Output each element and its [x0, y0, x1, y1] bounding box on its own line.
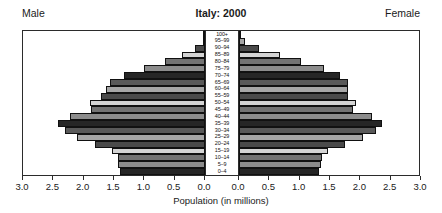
table-row [23, 100, 205, 107]
female-bars-panel [239, 31, 421, 175]
table-row [23, 79, 205, 86]
table-row [23, 120, 205, 127]
axis-tick [143, 176, 144, 180]
age-band-label-5-9: 5–9 [206, 162, 238, 167]
table-row [239, 65, 421, 72]
bar-female-30-34 [239, 127, 376, 134]
bar-female-35-39 [239, 120, 382, 127]
bar-female-95-99 [239, 38, 245, 45]
table-row [239, 168, 421, 175]
table-row [23, 72, 205, 79]
table-row [239, 141, 421, 148]
table-row [23, 134, 205, 141]
bar-female-10-14 [239, 154, 322, 161]
table-row [239, 93, 421, 100]
age-band-label-35-39: 35–39 [206, 121, 238, 126]
age-band-label-15-19: 15–19 [206, 148, 238, 153]
bar-male-70-74 [124, 72, 205, 79]
bar-female-75-79 [239, 65, 324, 72]
table-row [239, 106, 421, 113]
axis-tick [420, 176, 421, 180]
age-band-label-50-54: 50–54 [206, 100, 238, 105]
axis-tick-label: 1.0 [292, 181, 305, 192]
axis-tick-label: 2.5 [46, 181, 59, 192]
axis-tick-label: 0.0 [197, 181, 210, 192]
table-row [23, 65, 205, 72]
bar-male-75-79 [144, 65, 205, 72]
age-band-label-100+: 100+ [206, 32, 238, 37]
bar-female-25-29 [239, 134, 363, 141]
age-band-label-70-74: 70–74 [206, 73, 238, 78]
bar-male-0-4 [120, 168, 205, 175]
axis-tick [238, 176, 239, 180]
bar-female-90-94 [239, 45, 259, 52]
table-row [23, 38, 205, 45]
bar-male-20-24 [95, 141, 205, 148]
x-axis-title: Population (in millions) [22, 195, 420, 206]
axis-tick-label: 2.0 [353, 181, 366, 192]
axis-tick [359, 176, 360, 180]
age-band-label-40-44: 40–44 [206, 114, 238, 119]
age-band-label-65-69: 65–69 [206, 80, 238, 85]
plot-area: 0–45–910–1415–1920–2425–2930–3435–3940–4… [22, 30, 420, 176]
table-row [239, 113, 421, 120]
bar-female-60-64 [239, 86, 348, 93]
bar-male-5-9 [118, 161, 205, 168]
age-band-label-30-34: 30–34 [206, 128, 238, 133]
bar-male-45-49 [91, 106, 205, 113]
female-side-label: Female [385, 7, 420, 20]
population-pyramid-chart: Male Italy: 2000 Female 0–45–910–1415–19… [0, 0, 442, 213]
table-row [23, 106, 205, 113]
table-row [23, 127, 205, 134]
table-row [239, 86, 421, 93]
age-band-label-75-79: 75–79 [206, 66, 238, 71]
age-band-label-90-94: 90–94 [206, 45, 238, 50]
bar-male-40-44 [70, 113, 205, 120]
bar-female-65-69 [239, 79, 348, 86]
age-band-label-95-99: 95–99 [206, 38, 238, 43]
page-title: Italy: 2000 [0, 7, 442, 20]
x-axis: Population (in millions) 3.02.52.01.51.0… [22, 176, 420, 210]
axis-tick [390, 176, 391, 180]
table-row [239, 72, 421, 79]
table-row [239, 52, 421, 59]
age-label-axis: 0–45–910–1415–1920–2425–2930–3435–3940–4… [205, 31, 239, 175]
bar-male-35-39 [58, 120, 205, 127]
table-row [23, 168, 205, 175]
table-row [239, 45, 421, 52]
table-row [239, 38, 421, 45]
axis-tick-label: 1.0 [137, 181, 150, 192]
axis-tick [83, 176, 84, 180]
axis-tick-label: 1.5 [106, 181, 119, 192]
axis-tick-label: 0.5 [262, 181, 275, 192]
age-band-label-85-89: 85–89 [206, 52, 238, 57]
table-row [23, 148, 205, 155]
age-band-label-0-4: 0–4 [206, 169, 238, 174]
bar-female-0-4 [239, 168, 319, 175]
bar-female-50-54 [239, 100, 356, 107]
table-row [239, 100, 421, 107]
axis-tick [113, 176, 114, 180]
bar-male-60-64 [106, 86, 205, 93]
bar-male-85-89 [182, 52, 205, 59]
axis-tick [329, 176, 330, 180]
axis-tick-label: 0.0 [231, 181, 244, 192]
bar-female-20-24 [239, 141, 345, 148]
male-bars-panel [23, 31, 205, 175]
bar-female-80-84 [239, 58, 301, 65]
table-row [23, 31, 205, 38]
table-row [23, 52, 205, 59]
table-row [23, 58, 205, 65]
table-row [239, 154, 421, 161]
age-band-label-45-49: 45–49 [206, 107, 238, 112]
axis-tick [299, 176, 300, 180]
table-row [23, 141, 205, 148]
bar-female-15-19 [239, 148, 328, 155]
axis-tick-label: 0.5 [167, 181, 180, 192]
axis-tick-label: 3.0 [413, 181, 426, 192]
bar-female-40-44 [239, 113, 372, 120]
bar-male-90-94 [195, 45, 205, 52]
bar-female-100+ [239, 31, 241, 38]
axis-tick-label: 2.5 [383, 181, 396, 192]
age-band-label-10-14: 10–14 [206, 155, 238, 160]
